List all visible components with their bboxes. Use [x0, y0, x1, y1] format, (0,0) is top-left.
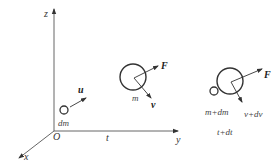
force-F-label-2: F — [263, 69, 271, 80]
force-F-arrow-2 — [231, 69, 262, 82]
velocity-u-label: u — [78, 84, 84, 95]
x-axis-label: x — [23, 151, 29, 162]
particle-mass-label: dm — [58, 118, 70, 128]
velocity-v-label: v — [151, 99, 156, 110]
body-mass-label: m — [132, 93, 139, 103]
particle-circle — [60, 106, 68, 114]
variable-mass-diagram: z y x O t u dm F v m F m+dm v+dv t+dt — [0, 0, 276, 167]
merged-body-circle — [217, 68, 243, 94]
time-label-t: t — [106, 132, 109, 143]
absorbed-particle-circle — [210, 87, 218, 95]
merged-mass-label: m+dm — [205, 107, 229, 117]
body-at-t: F v m — [120, 60, 168, 110]
particle-dm: u dm — [58, 84, 86, 128]
z-axis-label: z — [43, 8, 48, 19]
body-at-t-dt: F m+dm v+dv t+dt — [205, 68, 271, 137]
coordinate-axes: z y x O t — [19, 8, 181, 162]
velocity-u-arrow — [70, 98, 86, 107]
origin-label: O — [53, 131, 60, 142]
y-axis-label: y — [175, 134, 181, 145]
body-circle — [120, 64, 146, 90]
time-label-t-dt: t+dt — [217, 127, 233, 137]
velocity-v-dv-arrow — [231, 82, 242, 102]
velocity-v-dv-label: v+dv — [244, 109, 263, 119]
force-F-label: F — [160, 60, 168, 71]
